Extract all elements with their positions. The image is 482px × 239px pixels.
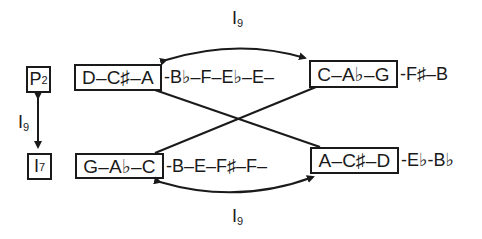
top-middle-notes: -B♭–F–E♭–E–: [164, 64, 274, 90]
bottom-left-trichord-box: G–A♭–C: [75, 153, 164, 179]
top-tail-notes: -F♯–B: [400, 61, 448, 87]
bottom-right-trichord-box: A–C♯–D: [310, 147, 399, 174]
top-left-trichord-box: D–C♯–A: [74, 64, 162, 91]
row-label-i7: I7: [27, 153, 52, 180]
connector-lines: [0, 0, 482, 239]
top-arc-label: I9: [232, 8, 243, 29]
row-label-p2: P2: [26, 66, 51, 93]
bottom-arc-label: I9: [232, 206, 243, 227]
bottom-middle-notes: -B–E–F♯–F–: [166, 153, 267, 179]
bottom-tail-notes: -E♭-B♭: [401, 147, 454, 173]
bottom-arc-arrow: [160, 177, 313, 192]
top-arc-arrow: [166, 48, 305, 60]
top-right-trichord-box: C–A♭–G: [309, 60, 398, 88]
vertical-relation-label: I9: [18, 112, 29, 133]
cross-line-top-right-to-bottom-left: [155, 87, 316, 153]
